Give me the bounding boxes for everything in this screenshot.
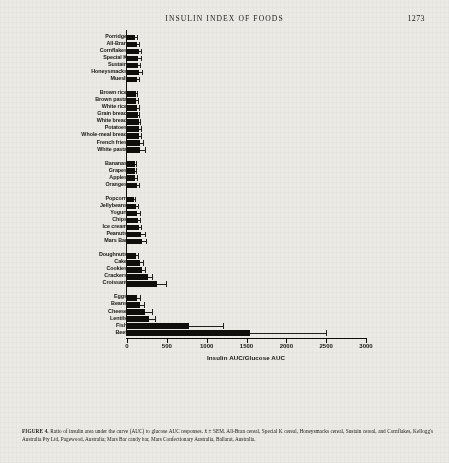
bar-label: Special K	[7, 54, 127, 61]
x-axis-tick	[366, 339, 367, 342]
error-bar-cap	[141, 225, 142, 231]
error-bar-cap	[139, 183, 140, 189]
bar-label: Brown rice	[7, 89, 127, 96]
x-axis-tick	[286, 339, 287, 342]
error-bar-cap	[141, 133, 142, 139]
bar-label: Cake	[7, 258, 127, 265]
bar-label: Sustain	[7, 61, 127, 68]
x-axis-tick	[127, 339, 128, 342]
bar-label: Muesli	[7, 75, 127, 82]
error-bar-cap	[140, 119, 141, 125]
x-axis-tick	[326, 339, 327, 342]
x-axis-tick	[247, 339, 248, 342]
bar-label: Mars Bar	[7, 237, 127, 244]
bar	[127, 77, 137, 83]
bar	[127, 140, 140, 146]
error-bar-cap	[141, 56, 142, 62]
error-bar-cap	[138, 253, 139, 259]
bar	[127, 42, 137, 48]
bar	[127, 70, 139, 76]
bar-label: White bread	[7, 117, 127, 124]
bar	[127, 232, 141, 238]
bar-label: Beans	[7, 300, 127, 307]
bar	[127, 204, 136, 210]
bar-label: Chips	[7, 216, 127, 223]
bar	[127, 126, 139, 132]
bar-label: Lentils	[7, 315, 127, 322]
error-bar-cap	[137, 35, 138, 41]
bar	[127, 35, 135, 41]
error-bar-cap	[138, 98, 139, 104]
error-bar-cap	[136, 168, 137, 174]
error-bar-cap	[145, 147, 146, 153]
bar	[127, 197, 134, 203]
bar-label: Fish	[7, 322, 127, 329]
error-bar-cap	[140, 211, 141, 217]
x-axis-tick-label: 0	[125, 343, 128, 349]
bar-label: Apples	[7, 174, 127, 181]
bar-label: Grain bread	[7, 110, 127, 117]
error-bar-cap	[135, 197, 136, 203]
figure-caption-label: FIGURE 4.	[22, 428, 49, 434]
x-axis-tick-label: 3000	[359, 343, 372, 349]
bar-label: Potatoes	[7, 124, 127, 131]
figure-caption: FIGURE 4. Ratio of insulin area under th…	[22, 428, 433, 443]
bar	[127, 302, 140, 308]
bar-label: Croissant	[7, 279, 127, 286]
x-axis-tick-label: 500	[162, 343, 172, 349]
error-bar-cap	[152, 309, 153, 315]
x-axis-tick-label: 2000	[280, 343, 293, 349]
bar-row: Muesli	[0, 76, 449, 83]
error-bar-cap	[139, 42, 140, 48]
x-axis-title: Insulin AUC/Glucose AUC	[126, 354, 366, 361]
bar-label: Grapes	[7, 167, 127, 174]
running-head: INSULIN INDEX OF FOODS 1273	[0, 14, 449, 28]
error-bar-cap	[166, 281, 167, 287]
bar	[127, 218, 138, 224]
error-bar	[157, 284, 166, 285]
bar-label: Crackers	[7, 272, 127, 279]
bar	[127, 183, 137, 189]
bar	[127, 316, 149, 322]
bar	[127, 281, 157, 287]
error-bar-cap	[137, 175, 138, 181]
bar-row: White pasta	[0, 147, 449, 154]
running-head-title: INSULIN INDEX OF FOODS	[0, 14, 449, 23]
bar-label: Cookies	[7, 265, 127, 272]
bar-label: Yogurt	[7, 209, 127, 216]
bar	[127, 112, 138, 118]
error-bar-cap	[142, 70, 143, 76]
insulin-index-bar-chart: PorridgeAll-BranCornflakesSpecial KSusta…	[0, 30, 449, 422]
x-axis-tick	[207, 339, 208, 342]
bar-label: Ice cream	[7, 223, 127, 230]
bar-row: Oranges	[0, 182, 449, 189]
error-bar-cap	[152, 274, 153, 280]
bar	[127, 274, 148, 280]
bar	[127, 225, 139, 231]
bar-row: Croissant	[0, 281, 449, 288]
bar-label: Doughnuts	[7, 251, 127, 258]
bar	[127, 309, 145, 315]
x-axis-tick-label: 1500	[240, 343, 253, 349]
bar	[127, 91, 136, 97]
bar	[127, 295, 137, 301]
x-axis-tick	[167, 339, 168, 342]
bar-label: Peanuts	[7, 230, 127, 237]
error-bar-cap	[146, 239, 147, 245]
bar	[127, 63, 138, 69]
bar	[127, 119, 139, 125]
error-bar-cap	[140, 218, 141, 224]
bar-label: White pasta	[7, 146, 127, 153]
bar	[127, 161, 135, 167]
figure-caption-text: Ratio of insulin area under the curve (A…	[22, 428, 433, 442]
bar	[127, 133, 139, 139]
error-bar-cap	[139, 112, 140, 118]
bar-label: Beef	[7, 329, 127, 336]
error-bar-cap	[143, 260, 144, 266]
error-bar-cap	[155, 316, 156, 322]
bar	[127, 330, 250, 336]
error-bar-cap	[136, 161, 137, 167]
bar-label: Cornflakes	[7, 47, 127, 54]
bar	[127, 105, 137, 111]
bar	[127, 323, 189, 329]
